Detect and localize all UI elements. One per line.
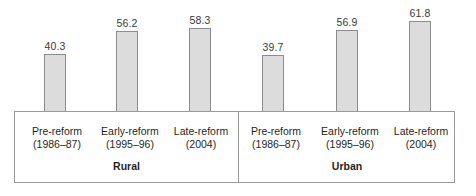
tick-label-line1: Pre-reform <box>251 125 301 137</box>
bar-chart-figure: 40.3 56.2 58.3 39.7 56.9 61.8 Pre <box>0 0 476 196</box>
bar-rect <box>409 21 431 112</box>
tick-label-line1: Early-reform <box>321 125 379 137</box>
bar-column-urban-late-reform: 61.8 <box>409 21 431 112</box>
bar-column-rural-early-reform: 56.2 <box>116 31 138 112</box>
tick-label-line2: (1986–87) <box>236 138 316 151</box>
group-panel-urban: Pre-reform (1986–87) Early-reform (1995–… <box>239 112 455 182</box>
tick-label-line1: Early-reform <box>101 125 159 137</box>
bar-value-label: 56.9 <box>336 16 357 28</box>
bar-rect <box>116 31 138 112</box>
category-label-box: Pre-reform (1986–87) Early-reform (1995–… <box>14 111 455 183</box>
tick-label-line1: Pre-reform <box>32 125 82 137</box>
bar-rect <box>336 30 358 112</box>
bar-value-label: 40.3 <box>44 40 65 52</box>
tick-label-line1: Late-reform <box>394 125 448 137</box>
tick-label-line2: (2004) <box>161 138 241 151</box>
tick-label-line1: Late-reform <box>174 125 228 137</box>
plot-area: 40.3 56.2 58.3 39.7 56.9 61.8 <box>0 0 476 112</box>
bar-rect <box>44 54 66 112</box>
bar-column-rural-pre-reform: 40.3 <box>44 54 66 112</box>
tick-label-line2: (2004) <box>381 138 461 151</box>
tick-label-urban-pre-reform: Pre-reform (1986–87) <box>236 125 316 151</box>
bar-column-rural-late-reform: 58.3 <box>189 28 211 112</box>
bar-column-urban-early-reform: 56.9 <box>336 30 358 112</box>
bar-column-urban-pre-reform: 39.7 <box>262 55 284 112</box>
tick-label-urban-late-reform: Late-reform (2004) <box>381 125 461 151</box>
bar-value-label: 56.2 <box>116 17 137 29</box>
tick-label-rural-late-reform: Late-reform (2004) <box>161 125 241 151</box>
group-name-urban: Urban <box>239 160 455 172</box>
bar-value-label: 61.8 <box>409 7 430 19</box>
bar-value-label: 58.3 <box>189 14 210 26</box>
bar-rect <box>189 28 211 112</box>
group-name-rural: Rural <box>15 160 238 172</box>
bar-value-label: 39.7 <box>262 41 283 53</box>
bar-rect <box>262 55 284 112</box>
group-panel-rural: Pre-reform (1986–87) Early-reform (1995–… <box>15 112 238 182</box>
